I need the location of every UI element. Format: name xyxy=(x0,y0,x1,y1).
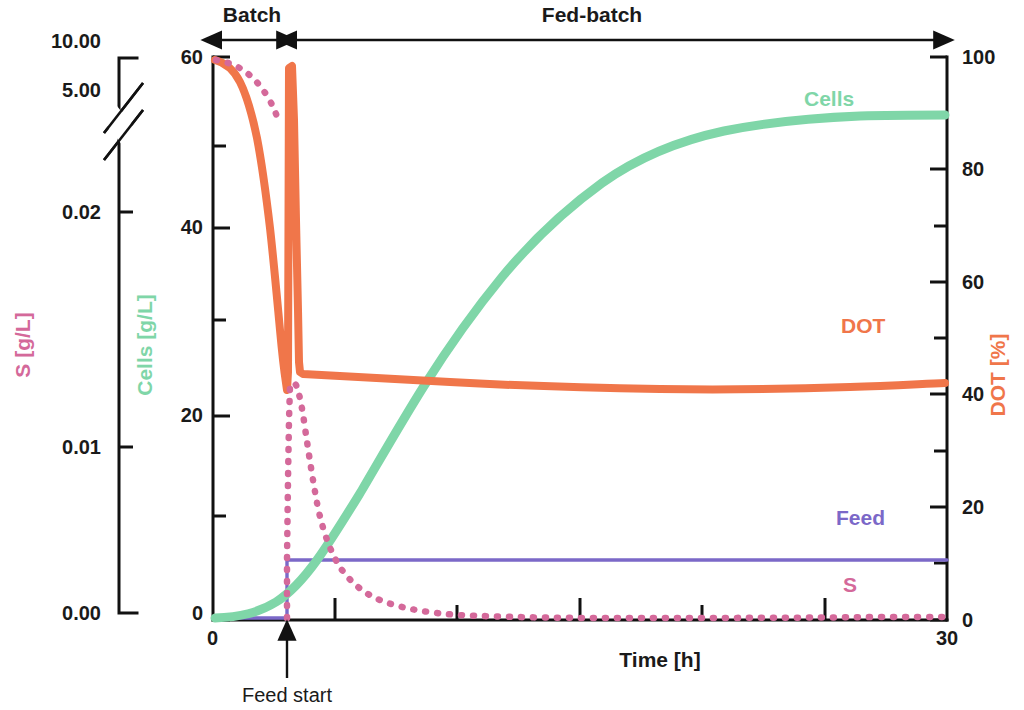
cells-axis-group: Cells [g/L] 60 40 20 0 xyxy=(133,46,203,624)
cells-curve xyxy=(215,115,945,618)
dot-series-label: DOT xyxy=(841,314,886,337)
fermentation-process-chart: 10.00 5.00 0.02 0.01 0.00 S [g/L] Cells … xyxy=(0,0,1024,710)
feed-start-annotation: Feed start xyxy=(242,636,332,706)
cells-series-label: Cells xyxy=(804,87,854,110)
s-axis-label-0-00: 0.00 xyxy=(62,602,101,624)
s-series-label: S xyxy=(843,573,857,596)
s-axis-label-10: 10.00 xyxy=(51,30,101,52)
feed-series-label: Feed xyxy=(836,506,885,529)
s-axis-label-5: 5.00 xyxy=(62,79,101,101)
s-axis-label-0-02: 0.02 xyxy=(62,201,101,223)
cells-axis-title: Cells [g/L] xyxy=(133,294,156,396)
axis-break-marks xyxy=(101,83,143,160)
dot-axis-label-80: 80 xyxy=(962,158,984,180)
plot-frame xyxy=(213,57,947,620)
dot-axis-ticks xyxy=(930,57,947,620)
fedbatch-phase-label: Fed-batch xyxy=(542,3,642,26)
cells-axis-label-40: 40 xyxy=(181,216,203,238)
phase-arrows: Batch Fed-batch xyxy=(222,3,938,40)
cells-axis-label-0: 0 xyxy=(192,602,203,624)
cells-axis-label-20: 20 xyxy=(181,404,203,426)
dot-axis-label-40: 40 xyxy=(962,383,984,405)
dot-axis-label-0: 0 xyxy=(962,609,973,631)
feed-start-label: Feed start xyxy=(242,684,332,706)
s-axis-title: S [g/L] xyxy=(11,312,34,377)
time-axis-label-30: 30 xyxy=(936,627,958,649)
batch-phase-label: Batch xyxy=(223,3,281,26)
time-axis-label-0: 0 xyxy=(207,627,218,649)
cells-axis-ticks xyxy=(213,57,230,620)
time-axis-title: Time [h] xyxy=(619,648,700,671)
s-axis-label-0-01: 0.01 xyxy=(62,436,101,458)
dot-axis-label-20: 20 xyxy=(962,496,984,518)
dot-axis-label-100: 100 xyxy=(962,46,995,68)
dot-axis-title: DOT [%] xyxy=(986,334,1009,417)
cells-axis-label-60: 60 xyxy=(181,46,203,68)
dot-axis-group: 100 80 60 40 20 0 DOT [%] xyxy=(962,46,1009,631)
time-axis-group: 0 30 Time [h] xyxy=(207,627,958,671)
dot-axis-label-60: 60 xyxy=(962,271,984,293)
s-axis-group: 10.00 5.00 0.02 0.01 0.00 S [g/L] xyxy=(11,30,143,624)
